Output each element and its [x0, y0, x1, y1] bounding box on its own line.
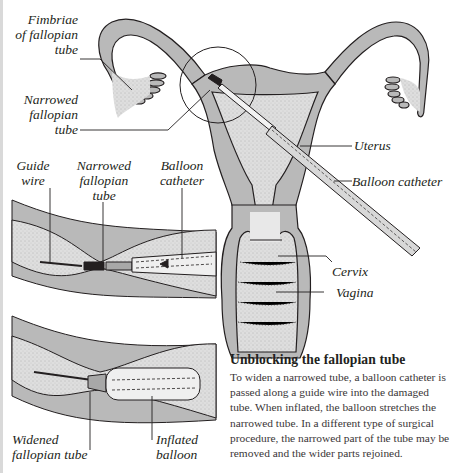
inset-widened — [12, 316, 216, 423]
label-balloon-catheter-inset: Balloon catheter — [152, 158, 212, 188]
caption-body: To widen a narrowed tube, a balloon cath… — [230, 370, 452, 461]
label-inflated-balloon: Inflated balloon — [156, 432, 198, 462]
label-guide-wire: Guide wire — [12, 158, 54, 188]
label-vagina: Vagina — [336, 285, 374, 300]
label-balloon-catheter-main: Balloon catheter — [352, 174, 442, 189]
right-fimbriae — [385, 77, 420, 112]
inset-narrowed — [12, 200, 216, 298]
cervix-canal — [250, 212, 280, 242]
label-narrowed-fallopian-tube: Narrowed fallopian tube — [14, 92, 78, 137]
label-uterus: Uterus — [354, 138, 391, 153]
caption-title: Unblocking the fallopian tube — [230, 351, 452, 368]
label-cervix: Cervix — [332, 264, 368, 279]
label-widened-fallopian-tube: Widened fallopian tube — [12, 432, 87, 462]
label-fimbriae: Fimbriae of fallopian tube — [20, 12, 78, 57]
caption-block: Unblocking the fallopian tube To widen a… — [230, 351, 452, 461]
label-narrowed-inset: Narrowed fallopian tube — [72, 158, 136, 203]
left-fimbriae — [112, 70, 166, 118]
